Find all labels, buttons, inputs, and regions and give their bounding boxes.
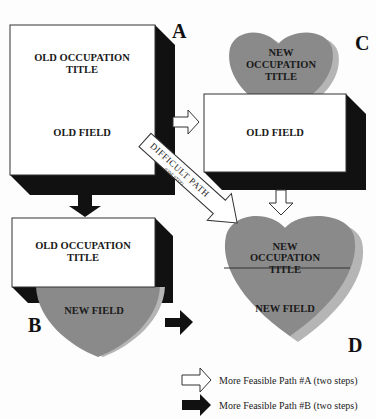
label-a: A: [172, 20, 187, 42]
box-a: OLD OCCUPATION TITLE OLD FIELD A: [10, 20, 187, 195]
box-d-heart: [225, 216, 355, 336]
box-c-title-2: OCCUPATION: [246, 59, 317, 70]
label-d: D: [348, 334, 362, 356]
box-b-title-1: OLD OCCUPATION: [35, 240, 131, 251]
black-arrow-icon: [182, 394, 211, 416]
box-a-title-2: TITLE: [66, 64, 98, 75]
box-a-rect: [10, 25, 155, 175]
legend-label-a: More Feasible Path #A (two steps): [219, 375, 358, 387]
black-arrow-b-to-d: [165, 310, 193, 335]
white-arrow-a-to-c: [173, 110, 199, 134]
box-d-title-2: OCCUPATION: [250, 252, 321, 263]
white-arrow-c-to-d: [269, 190, 293, 215]
box-b-half-heart: [36, 287, 160, 357]
box-d-title-1: NEW: [272, 241, 298, 252]
box-a-field: OLD FIELD: [53, 127, 111, 138]
black-arrow-a-to-b: [69, 195, 101, 217]
box-d-title-3: TITLE: [269, 264, 301, 275]
box-c-field: OLD FIELD: [246, 127, 304, 138]
box-c-title-1: NEW: [268, 47, 294, 58]
box-b: OLD OCCUPATION TITLE NEW FIELD B: [12, 218, 173, 357]
box-a-title-1: OLD OCCUPATION: [34, 52, 130, 63]
box-c: NEW OCCUPATION TITLE OLD FIELD C: [204, 32, 369, 190]
white-arrow-icon: [182, 368, 211, 392]
label-c: C: [355, 32, 369, 54]
box-b-title-2: TITLE: [67, 252, 99, 263]
legend: More Feasible Path #A (two steps) More F…: [182, 368, 358, 416]
box-c-title-3: TITLE: [265, 71, 297, 82]
box-d: NEW OCCUPATION TITLE NEW FIELD D: [224, 216, 363, 356]
legend-item-a: More Feasible Path #A (two steps): [182, 368, 358, 392]
box-d-field: NEW FIELD: [255, 303, 315, 314]
legend-label-b: More Feasible Path #B (two steps): [219, 400, 358, 412]
legend-item-b: More Feasible Path #B (two steps): [182, 394, 358, 416]
box-b-field: NEW FIELD: [64, 305, 124, 316]
career-path-diagram: OLD OCCUPATION TITLE OLD FIELD A NEW OCC…: [0, 0, 376, 419]
label-b: B: [28, 314, 41, 336]
